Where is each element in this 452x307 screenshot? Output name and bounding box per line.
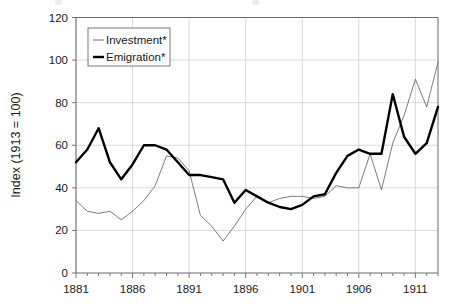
y-tick-label: 60 <box>55 139 68 151</box>
y-tick-label: 100 <box>49 54 68 66</box>
x-axis-tick-labels: 1881188618911896190119061911 <box>63 283 428 295</box>
y-tick-label: 40 <box>55 182 68 194</box>
y-tick-label: 0 <box>62 267 68 279</box>
x-tick-label: 1891 <box>176 283 202 295</box>
x-tick-label: 1911 <box>403 283 428 295</box>
x-tick-label: 1901 <box>289 283 315 295</box>
legend-label-emigration: Emigration* <box>106 51 166 63</box>
x-axis-ticks <box>76 273 438 278</box>
y-tick-label: 20 <box>55 224 68 236</box>
series-line-emigration <box>76 94 438 209</box>
y-tick-label: 120 <box>49 12 68 24</box>
chart-legend[interactable]: Investment* Emigration* <box>88 28 170 66</box>
x-tick-label: 1886 <box>120 283 146 295</box>
y-axis-ticks <box>72 18 76 274</box>
y-axis-title: Index (1913 = 100) <box>9 92 23 197</box>
x-tick-label: 1881 <box>63 283 89 295</box>
line-chart: Index (1913 = 100) 020406080100120 18811… <box>0 0 452 307</box>
y-axis-tick-labels: 020406080100120 <box>49 12 68 280</box>
series-line-investment <box>76 62 438 241</box>
y-tick-label: 80 <box>55 97 68 109</box>
x-tick-label: 1896 <box>233 283 259 295</box>
x-tick-label: 1906 <box>346 283 372 295</box>
legend-label-investment: Investment* <box>106 34 167 46</box>
top-edge-artifacts <box>55 0 259 5</box>
chart-container: Index (1913 = 100) 020406080100120 18811… <box>0 0 452 307</box>
